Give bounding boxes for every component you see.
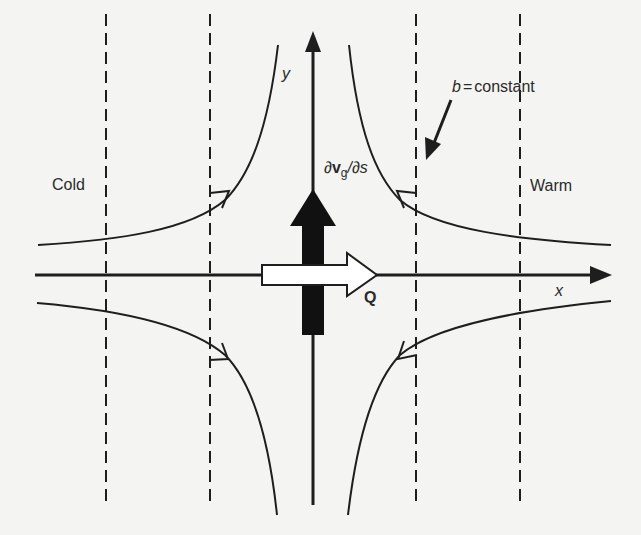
streamline-upper-right	[349, 45, 611, 245]
deformation-diagram: Cold Warm x y b=constant ∂vg/∂s Q	[0, 0, 641, 535]
streamline-lower-right	[348, 301, 611, 515]
dvg-ds-arrowhead-icon	[290, 189, 336, 226]
dvg-ds-arrow	[290, 189, 336, 335]
dvg-ds-label: ∂vg/∂s	[324, 159, 368, 180]
warm-label: Warm	[530, 177, 572, 194]
cold-label: Cold	[52, 176, 85, 193]
streamline-lower-left	[37, 303, 277, 515]
y-axis-label: y	[281, 65, 291, 82]
b-constant-pointer	[425, 100, 451, 160]
streamline-upper-left	[38, 45, 278, 245]
y-axis-arrowhead-icon	[305, 31, 321, 52]
pointer-arrowhead-icon	[425, 137, 441, 160]
b-constant-label: b=constant	[452, 78, 535, 95]
x-axis-label: x	[554, 282, 564, 299]
q-vector-label: Q	[364, 289, 376, 306]
x-axis-arrowhead-icon	[590, 266, 612, 284]
